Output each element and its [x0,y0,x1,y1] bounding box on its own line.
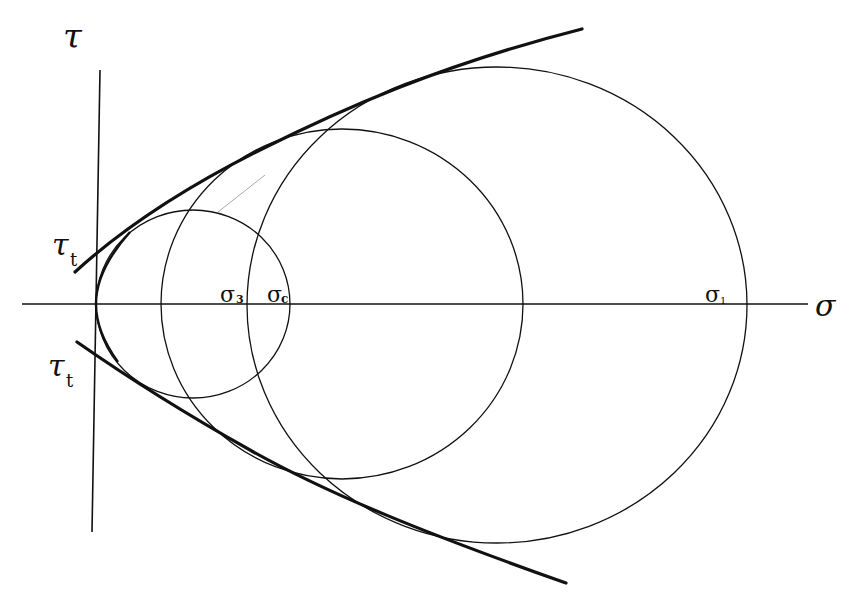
tau-t-upper-subscript: t [70,249,78,270]
sigma-3-label: σ [220,282,235,307]
failure-envelope-lower [77,342,566,583]
sigma-3-subscript: 3 [236,293,244,306]
sigma-c-label: σ [267,282,282,307]
tau-t-lower-label: τ [48,348,65,383]
construction-line [218,175,265,212]
sigma-1-label: σ [705,282,720,307]
failure-envelope-upper [75,29,582,272]
mohr-circle-large [247,67,747,543]
sigma-1-subscript: 1 [720,295,726,306]
sigma-c-subscript: c [281,292,288,306]
sigma-axis-label: σ [815,288,837,323]
tau-t-lower-subscript: t [66,370,74,391]
tau-axis-label: τ [63,16,83,56]
mohr-circle-diagram: τ σ τ t τ t σ 3 σ c σ 1 [0,0,865,596]
tau-t-upper-label: τ [52,227,69,262]
